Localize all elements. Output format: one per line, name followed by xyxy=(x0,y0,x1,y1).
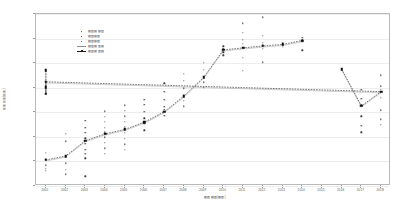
legend-dot-icon xyxy=(77,39,86,43)
chart-container: ▤▥▤▥(▤▥) ▤▥▤▥(▤▥) 5000100001500020000250… xyxy=(0,0,409,210)
legend-dot-glyph xyxy=(81,41,82,42)
plot-area: ▤▥▤ ▤▥▤▥▤▥▤▥▤▥▤▥▤ ▥▤▤▥▤ ▥▤ xyxy=(35,13,390,185)
trend-marker xyxy=(340,68,343,71)
trend-marker xyxy=(163,111,166,114)
trend-marker xyxy=(301,39,304,42)
legend-square-icon xyxy=(77,49,86,53)
x-tick-label: 2013 xyxy=(278,188,285,192)
legend-item[interactable]: ▤▥▤ ▥▤ xyxy=(77,44,123,48)
x-tick-label: 2010 xyxy=(219,188,226,192)
x-tick-label: 2003 xyxy=(81,188,88,192)
trend-marker xyxy=(262,45,265,48)
x-tick-label: 2001 xyxy=(41,188,48,192)
x-tick-label: 2011 xyxy=(239,188,246,192)
x-tick-label: 2012 xyxy=(258,188,265,192)
trend-marker xyxy=(143,121,146,124)
x-tick-label: 2006 xyxy=(140,188,147,192)
legend-square-glyph xyxy=(81,50,83,52)
legend-dot-icon xyxy=(77,34,86,38)
legend-dot-icon xyxy=(77,29,86,33)
x-tick-label: 2004 xyxy=(100,188,107,192)
legend-item[interactable]: ▤▥▤ ▥▤ xyxy=(77,49,123,53)
trend-marker xyxy=(45,159,48,162)
trend-marker xyxy=(202,76,205,79)
trend-marker xyxy=(104,133,107,136)
legend-item[interactable]: ▤▥▤▥ xyxy=(77,39,123,43)
x-tick-label: 2018 xyxy=(376,188,383,192)
legend-label: ▤▥▤▥ xyxy=(88,39,100,43)
trend-marker xyxy=(222,49,225,52)
trend-marker xyxy=(124,128,127,131)
x-tick-label: 2015 xyxy=(317,188,324,192)
legend-label: ▤▥▤ ▤▥ xyxy=(88,29,104,33)
trend-marker xyxy=(45,81,48,84)
trend-marker xyxy=(281,43,284,46)
y-axis-title: ▤▥▤▥(▤▥) xyxy=(2,88,6,109)
x-tick-label: 2007 xyxy=(160,188,167,192)
x-tick-label: 2017 xyxy=(357,188,364,192)
legend-item[interactable]: ▤▥▤▥ xyxy=(77,34,123,38)
y-tick-mark xyxy=(33,185,36,186)
trend-marker xyxy=(64,155,67,158)
x-tick-label: 2009 xyxy=(199,188,206,192)
x-tick-label: 2002 xyxy=(61,188,68,192)
legend-label: ▤▥▤▥ xyxy=(88,34,100,38)
trend-marker xyxy=(84,140,87,143)
trend-line-primary xyxy=(46,69,381,106)
trend-marker xyxy=(45,92,48,95)
legend-label: ▤▥▤ ▥▤ xyxy=(88,49,104,53)
trend-marker xyxy=(360,105,363,108)
x-axis-title: ▤▥▤▥(▤▥) xyxy=(204,195,225,199)
x-tick-label: 2014 xyxy=(298,188,305,192)
x-tick-label: 2005 xyxy=(120,188,127,192)
x-tick-label: 2016 xyxy=(337,188,344,192)
trend-line-secondary xyxy=(46,70,381,107)
trend-line-primary xyxy=(46,41,302,160)
trend-marker xyxy=(45,86,48,89)
legend-dot-glyph xyxy=(81,36,82,37)
trend-marker xyxy=(380,90,383,93)
trend-marker xyxy=(183,95,186,98)
legend-label: ▤▥▤ ▥▤ xyxy=(88,44,104,48)
legend-dot-glyph xyxy=(81,31,82,32)
trend-marker xyxy=(45,69,48,72)
legend-dot-icon xyxy=(77,44,86,48)
gridline xyxy=(36,186,389,187)
chart-legend: ▤▥▤ ▤▥▤▥▤▥▤▥▤▥▤▥▤ ▥▤▤▥▤ ▥▤ xyxy=(77,29,123,53)
legend-item[interactable]: ▤▥▤ ▤▥ xyxy=(77,29,123,33)
x-tick-label: 2008 xyxy=(179,188,186,192)
trend-marker xyxy=(242,47,245,50)
